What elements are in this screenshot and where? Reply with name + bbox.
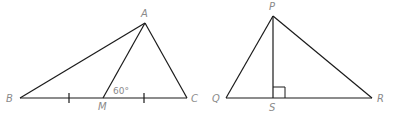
vertex-label-p: P: [269, 1, 276, 12]
vertex-label-r: R: [377, 93, 384, 104]
segment-pq: [226, 16, 273, 98]
triangle-pqr: P Q R S: [212, 1, 384, 113]
triangle-abc: A B C M 60°: [6, 8, 198, 112]
geometry-diagram: A B C M 60° P Q R S: [0, 0, 394, 116]
vertex-label-a: A: [140, 8, 148, 19]
vertex-label-c: C: [191, 93, 198, 104]
point-label-s: S: [269, 102, 276, 113]
point-label-m: M: [98, 101, 107, 112]
right-angle-marker: [273, 87, 285, 98]
angle-label-60: 60°: [113, 86, 129, 96]
vertex-label-b: B: [6, 93, 13, 104]
segment-ac: [145, 23, 187, 98]
segment-pr: [273, 16, 372, 98]
vertex-label-q: Q: [212, 93, 220, 104]
